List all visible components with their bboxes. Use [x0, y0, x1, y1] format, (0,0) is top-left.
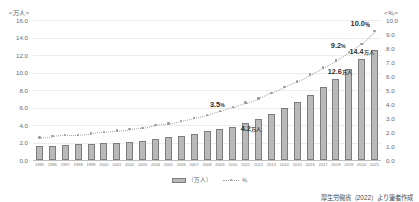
line-marker — [232, 106, 234, 108]
bar-column — [88, 20, 95, 160]
y-tick-label-left: 0.0 — [6, 157, 28, 164]
bar — [178, 136, 185, 161]
bar — [358, 59, 365, 160]
y-tick-label-right: 5.0 — [386, 87, 410, 94]
bar-column — [62, 20, 69, 160]
bar — [320, 87, 327, 160]
bar-column — [152, 20, 159, 160]
y-tick-label-right: 0.0 — [386, 157, 410, 164]
y-tick-label-right: 8.0 — [386, 45, 410, 52]
plot-area — [33, 20, 381, 160]
bar — [294, 102, 301, 160]
bar — [371, 50, 378, 160]
bar — [165, 137, 172, 160]
bar-column — [216, 20, 223, 160]
bar — [268, 114, 275, 160]
line-marker — [167, 122, 169, 124]
bar-column — [294, 20, 301, 160]
line-marker — [257, 97, 259, 99]
y-tick-label-right: 9.0 — [386, 31, 410, 38]
y-tick-label-right: 6.0 — [386, 73, 410, 80]
bar-column — [113, 20, 120, 160]
y-tick-label-left: 2.0 — [6, 139, 28, 146]
bar-column — [255, 20, 262, 160]
x-axis-line — [33, 160, 381, 161]
bar — [307, 95, 314, 160]
annotation-unit: % — [341, 43, 346, 49]
bar — [62, 145, 69, 160]
y-tick-label-left: 8.0 — [6, 87, 28, 94]
annotation-12-6-man-nin: 12.6万人 — [328, 67, 352, 76]
source-caption: 厚生労働省（2022）より筆者作成 — [321, 193, 413, 202]
line-marker — [154, 124, 156, 126]
line-marker — [335, 59, 337, 61]
bar-column — [75, 20, 82, 160]
legend-bar-swatch — [172, 178, 186, 183]
legend-line-swatch — [223, 178, 239, 183]
bar-column — [165, 20, 172, 160]
chart-legend: （万人） ％ — [0, 176, 419, 184]
bar — [191, 134, 198, 160]
bar-column — [229, 20, 236, 160]
bar — [113, 143, 120, 161]
y-tick-label-right: 1.0 — [386, 143, 410, 150]
y-tick-label-right: 3.0 — [386, 115, 410, 122]
annotation-unit: 万人 — [342, 69, 352, 75]
legend-bar-label: （万人） — [188, 176, 212, 184]
annotation-3-5-percent: 3.5% — [210, 100, 225, 109]
bar — [36, 146, 43, 160]
bar-column — [242, 20, 249, 160]
annotation-value: 3.5 — [210, 100, 220, 109]
line-marker — [360, 43, 362, 45]
annotation-unit: ％ — [365, 21, 370, 27]
annotation-unit: 万人 — [364, 49, 374, 55]
y-tick-label-right: 4.0 — [386, 101, 410, 108]
y-tick-label-left: 12.0 — [6, 52, 28, 59]
bar — [126, 142, 133, 160]
bar-column — [204, 20, 211, 160]
bar — [75, 144, 82, 160]
annotation-value: 9.2 — [331, 41, 341, 50]
bar — [216, 129, 223, 160]
line-marker — [141, 127, 143, 129]
annotation-unit: % — [220, 102, 225, 108]
bar — [100, 143, 107, 160]
y-tick-label-right: 10.0 — [386, 17, 410, 24]
chart-container: <万人> <％> 0.02.04.06.08.010.012.014.016.0… — [0, 0, 419, 202]
legend-item-line: ％ — [223, 176, 248, 184]
line-marker — [322, 66, 324, 68]
annotation-value: 14.4 — [350, 47, 364, 56]
annotation-value: 4.2 — [241, 124, 251, 133]
legend-line-label: ％ — [242, 176, 248, 184]
annotation-10-0-percent: 10.0％ — [351, 19, 370, 28]
line-marker — [244, 101, 246, 103]
line-marker — [116, 129, 118, 131]
bar — [88, 144, 95, 160]
line-marker — [38, 136, 40, 138]
y-tick-label-left: 16.0 — [6, 17, 28, 24]
annotation-unit: 万人 — [251, 126, 261, 132]
bar — [345, 69, 352, 160]
y-tick-label-left: 6.0 — [6, 104, 28, 111]
y-tick-label-left: 10.0 — [6, 69, 28, 76]
bar — [332, 79, 339, 160]
bar — [139, 141, 146, 160]
bar — [204, 131, 211, 160]
y-tick-label-left: 4.0 — [6, 122, 28, 129]
bar-column — [191, 20, 198, 160]
bar — [49, 146, 56, 160]
y-tick-label-right: 7.0 — [386, 59, 410, 66]
annotation-value: 12.6 — [328, 67, 342, 76]
bar — [229, 127, 236, 160]
bar-column — [281, 20, 288, 160]
bar — [152, 139, 159, 160]
line-marker — [90, 132, 92, 134]
bar-column — [345, 20, 352, 160]
bar-column — [178, 20, 185, 160]
bar-column — [100, 20, 107, 160]
bar — [281, 108, 288, 160]
bar-column — [371, 20, 378, 160]
y-axis-title-left: <万人> — [9, 8, 29, 17]
y-tick-label-left: 14.0 — [6, 34, 28, 41]
annotation-14-4-man-nin: 14.4万人 — [350, 47, 374, 56]
